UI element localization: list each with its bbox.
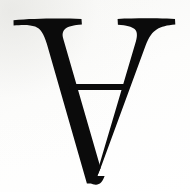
glyph-canvas: Black serif turned capital A glyph [0, 0, 190, 192]
turned-a-glyph: Black serif turned capital A glyph [0, 0, 190, 192]
horizontal-crossbar [69, 84, 128, 90]
right-thin-diagonal-stroke [94, 18, 175, 183]
ink-group [14, 18, 176, 184]
left-thick-diagonal-stroke [14, 18, 101, 183]
